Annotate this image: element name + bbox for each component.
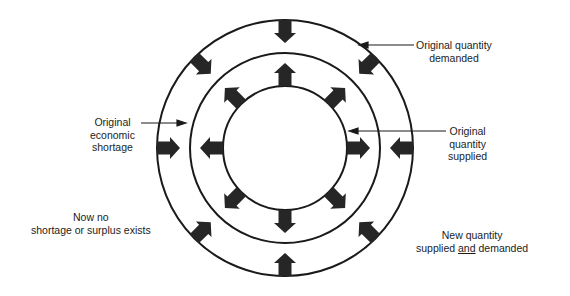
arrowhead-icon [359,42,368,48]
label-line: shortage or surplus exists [31,224,151,237]
label-fragment: demanded [476,242,529,254]
label-line: quantity [448,138,487,151]
inward-block-arrow-icon [351,50,383,82]
label-original-economic-shortage: Original economic shortage [90,116,135,154]
outward-block-arrow-icon [274,63,296,86]
label-line: Original [448,125,487,138]
label-line: shortage [90,141,135,154]
inward-block-arrow-icon [157,137,180,159]
inward-block-arrow-icon [351,214,383,246]
outward-block-arrow-icon [200,137,223,159]
inward-arrows-group [157,20,413,276]
outward-block-arrow-icon [217,80,249,112]
label-line: New quantity [416,229,528,242]
inward-block-arrow-icon [390,137,413,159]
label-original-quantity-demanded: Original quantity demanded [416,39,492,64]
outward-block-arrow-icon [347,137,370,159]
inward-block-arrow-icon [274,253,296,276]
inner-circle-quantity-supplied [223,86,347,210]
outward-block-arrow-icon [321,184,353,216]
leader-lines [141,42,446,134]
outward-arrows-group [200,63,370,233]
inward-block-arrow-icon [274,20,296,43]
label-line: demanded [416,52,492,65]
label-line: supplied and demanded [416,242,528,255]
label-line: economic [90,129,135,142]
inward-block-arrow-icon [187,50,219,82]
label-line: Original quantity [416,39,492,52]
label-new-quantity-supplied-and-demanded: New quantity supplied and demanded [416,229,528,254]
outward-block-arrow-icon [321,80,353,112]
label-original-quantity-supplied: Original quantity supplied [448,125,487,163]
arrowhead-icon [349,128,358,134]
label-line: Now no [31,211,151,224]
inward-block-arrow-icon [187,214,219,246]
label-line: Original [90,116,135,129]
label-line: supplied [448,150,487,163]
label-fragment: supplied [416,242,458,254]
label-fragment-underlined: and [458,242,476,254]
outward-block-arrow-icon [274,210,296,233]
label-no-shortage-or-surplus: Now no shortage or surplus exists [31,211,151,236]
arrowhead-icon [177,120,186,126]
outward-block-arrow-icon [217,184,249,216]
